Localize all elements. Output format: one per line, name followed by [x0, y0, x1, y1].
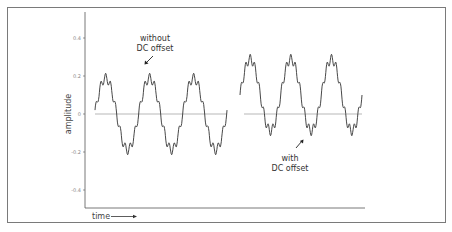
arrow-right-icon	[111, 215, 137, 218]
chart: 0.4 0.2 0 -0.2 -0.4 amplitude time witho…	[0, 0, 452, 232]
arrow-pointer-icon	[296, 140, 304, 149]
wave-with-dc-offset	[240, 54, 362, 135]
y-axis-title: amplitude	[64, 94, 73, 135]
tick-label: -0.4	[71, 187, 81, 193]
x-axis-title: time	[92, 212, 110, 221]
tick-label: -0.2	[71, 149, 81, 155]
annotation-without-dc-line2: DC offset	[137, 44, 174, 53]
annotation-with-dc-line1: with	[282, 154, 299, 163]
annotation-with-dc-line2: DC offset	[272, 164, 309, 173]
arrow-pointer-icon	[145, 56, 154, 65]
annotation-without-dc-line1: without	[140, 34, 170, 43]
tick-label: 0.2	[73, 73, 81, 79]
tick-label: 0.4	[73, 35, 81, 41]
tick-label: 0	[78, 111, 81, 117]
